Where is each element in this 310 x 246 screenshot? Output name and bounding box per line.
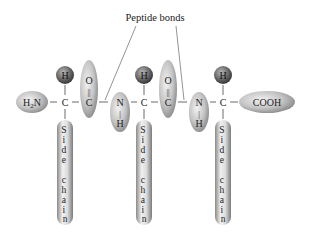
svg-text:N: N	[116, 97, 123, 108]
alpha-carbon: C	[141, 97, 148, 108]
svg-text:||: ||	[87, 88, 90, 97]
amide-group-1: N | H	[110, 92, 130, 132]
svg-text:H: H	[61, 70, 68, 81]
svg-text:O: O	[85, 75, 92, 86]
alpha-carbon: C	[220, 97, 227, 108]
svg-text:H: H	[116, 118, 123, 129]
peptide-chain-diagram: Peptide bonds H2N COOH H C	[0, 0, 310, 246]
svg-text:O: O	[164, 75, 171, 86]
n-terminus: H2N	[16, 91, 48, 113]
svg-text:||: ||	[166, 88, 169, 97]
svg-text:COOH: COOH	[253, 97, 281, 108]
svg-text:N: N	[195, 97, 202, 108]
peptide-bond-leader-2	[176, 26, 184, 100]
peptide-bond-leader-1	[105, 26, 136, 100]
svg-text:C: C	[165, 97, 172, 108]
amide-group-2: N | H	[189, 92, 209, 132]
svg-text:C: C	[86, 97, 93, 108]
svg-text:H: H	[140, 70, 147, 81]
carbonyl-group-2: O || C	[159, 60, 177, 118]
svg-text:H: H	[195, 118, 202, 129]
svg-text:H: H	[219, 70, 226, 81]
peptide-bonds-label: Peptide bonds	[125, 12, 184, 23]
carbonyl-group-1: O || C	[80, 60, 98, 118]
alpha-carbon: C	[62, 97, 69, 108]
c-terminus: COOH	[239, 91, 295, 113]
